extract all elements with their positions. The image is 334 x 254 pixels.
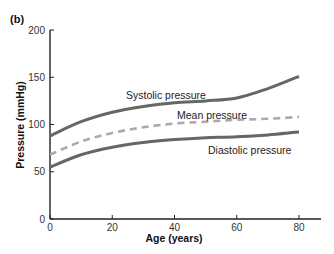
y-tick-label: 150 — [28, 72, 45, 83]
x-axis-title: Age (years) — [145, 232, 202, 244]
systolic-pressure-label: Systolic pressure — [126, 89, 206, 101]
systolic-pressure-line — [50, 76, 299, 136]
x-tick-label: 20 — [107, 222, 119, 233]
diastolic-pressure-label: Diastolic pressure — [208, 144, 292, 156]
x-tick-label: 0 — [47, 222, 53, 233]
x-tick-label: 80 — [293, 222, 305, 233]
series-labels: Systolic pressureMean pressureDiastolic … — [126, 89, 292, 156]
y-tick-label: 50 — [34, 166, 46, 177]
blood-pressure-chart: 050100150200020406080Age (years)Pressure… — [0, 0, 334, 254]
mean-pressure-label: Mean pressure — [177, 109, 247, 121]
x-tick-label: 60 — [231, 222, 243, 233]
y-tick-label: 0 — [39, 214, 45, 225]
y-axis-title: Pressure (mmHg) — [14, 81, 26, 169]
y-tick-label: 200 — [28, 25, 45, 36]
y-tick-label: 100 — [28, 119, 45, 130]
